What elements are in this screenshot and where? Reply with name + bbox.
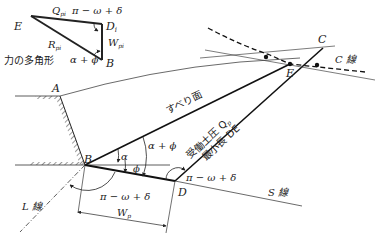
passive-line-DE	[175, 48, 323, 181]
label-slip-plane: すべり面	[164, 89, 204, 116]
label-Wp: Wp	[117, 207, 131, 220]
label-Rpi: Rpi	[47, 39, 61, 52]
angle-top-polygon: π − ω + δ	[71, 5, 122, 16]
force-polygon-title: 力の多角形	[4, 54, 54, 66]
label-Qpi: Qpi	[52, 5, 66, 18]
earth-pressure-diagram: E Di B Qpi π − ω + δ Wpi Rpi α + ϕ 力の多角形…	[0, 0, 380, 241]
angle-phi: ϕ	[133, 163, 140, 174]
angle-bottom-polygon: α + ϕ	[70, 54, 98, 65]
angle-alpha: α	[121, 151, 128, 162]
angle-at-D: π − ω + δ	[185, 172, 236, 183]
label-Di: Di	[105, 20, 117, 34]
label-Wpi: Wpi	[108, 37, 124, 50]
label-B-polygon: B	[105, 57, 114, 70]
label-C-line: C 線	[335, 54, 357, 65]
label-S-line: S 線	[268, 187, 289, 198]
angle-alpha-phi: α + ϕ	[148, 140, 176, 151]
label-A: A	[51, 82, 60, 95]
force-polygon: E Di B Qpi π − ω + δ Wpi Rpi α + ϕ 力の多角形	[4, 5, 124, 70]
label-C: C	[318, 33, 327, 46]
L-line	[20, 165, 85, 232]
label-L-line: L 線	[21, 201, 43, 212]
label-B: B	[83, 153, 92, 166]
angle-below-B: π − ω + δ	[99, 191, 150, 202]
label-E: E	[285, 67, 294, 80]
label-Ei: E	[13, 20, 22, 33]
label-D: D	[177, 186, 187, 199]
